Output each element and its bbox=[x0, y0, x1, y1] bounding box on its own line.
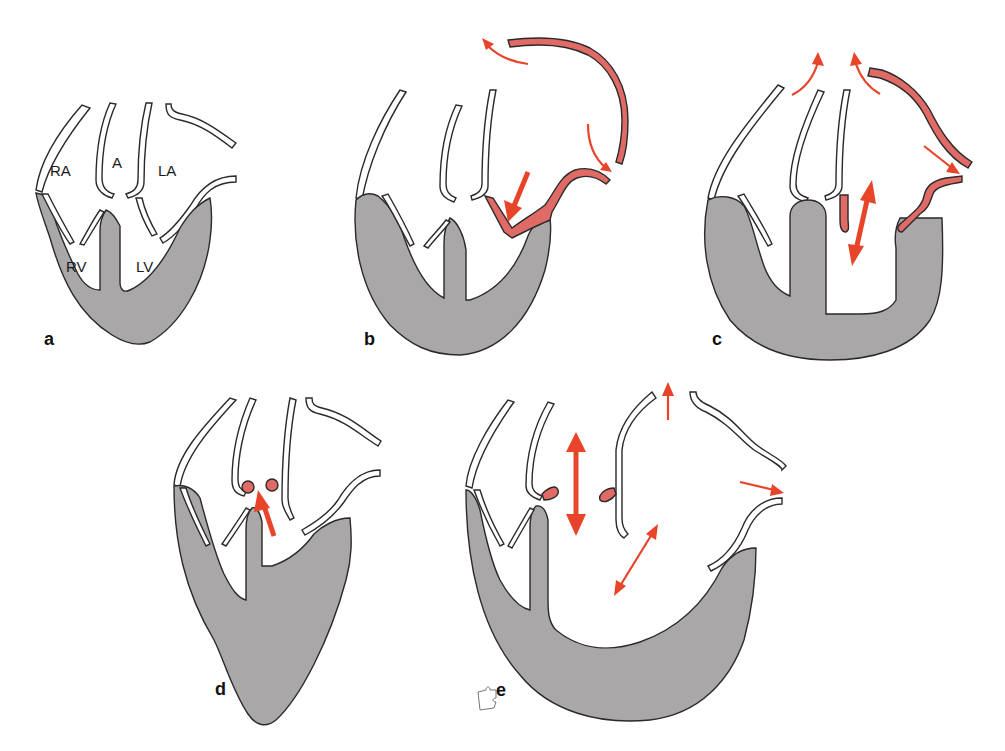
arrowhead-icon bbox=[614, 580, 626, 596]
label-ra: RA bbox=[50, 162, 71, 179]
myocardium bbox=[466, 490, 756, 721]
arrowhead-icon bbox=[850, 52, 862, 66]
myocardium bbox=[355, 194, 551, 355]
arrowhead-icon bbox=[812, 52, 824, 66]
arrowhead-icon bbox=[254, 490, 270, 512]
panel-c: c bbox=[705, 52, 972, 360]
double-arrow-icon bbox=[856, 196, 868, 250]
aneurysm-wall bbox=[508, 38, 628, 164]
arrow-icon bbox=[740, 482, 774, 490]
arrowhead-icon bbox=[860, 180, 876, 204]
puzzle-icon bbox=[478, 687, 496, 710]
arrowhead-icon bbox=[848, 244, 864, 266]
aorta-right-wall bbox=[471, 90, 496, 200]
aorta-left-wall bbox=[790, 90, 824, 202]
prolapsed-leaflet bbox=[266, 479, 278, 491]
aorta-left-wall bbox=[440, 105, 462, 202]
curved-arrow-icon bbox=[792, 62, 818, 95]
ra-wall bbox=[708, 85, 784, 200]
thick-arrow-icon bbox=[264, 506, 274, 536]
label-la: LA bbox=[158, 162, 176, 179]
panel-e: e bbox=[466, 382, 786, 721]
panel-label-b: b bbox=[364, 329, 375, 349]
aorta-right-wall bbox=[282, 398, 296, 520]
aorta-right-wall bbox=[825, 90, 850, 200]
arrowhead-icon bbox=[770, 484, 784, 496]
ra-wall bbox=[356, 90, 406, 200]
aorta-right-wall bbox=[616, 392, 656, 538]
prolapsed-leaflet bbox=[600, 488, 616, 502]
la-wall bbox=[690, 392, 786, 470]
panel-label-c: c bbox=[712, 329, 722, 349]
ra-wall bbox=[174, 398, 236, 487]
panel-label-a: a bbox=[44, 329, 55, 349]
arrowhead-icon bbox=[566, 514, 586, 536]
curved-arrow-icon bbox=[488, 46, 528, 64]
mitral-leaflet bbox=[136, 198, 157, 236]
la-wall bbox=[166, 104, 236, 148]
aorta-left-wall bbox=[96, 103, 116, 198]
infarct-wall bbox=[840, 195, 849, 232]
atrial-wall bbox=[868, 68, 972, 168]
curved-arrow-icon bbox=[588, 124, 606, 168]
ra-wall bbox=[466, 400, 514, 488]
prolapsed-leaflet bbox=[242, 481, 254, 493]
arrowhead-icon bbox=[662, 382, 674, 396]
prolapsed-leaflet bbox=[542, 487, 558, 500]
panel-label-d: d bbox=[215, 679, 226, 699]
arrowhead-icon bbox=[646, 524, 658, 540]
label-rv: RV bbox=[66, 258, 87, 275]
double-arrow-icon bbox=[620, 534, 652, 586]
arrowhead-icon bbox=[482, 38, 494, 50]
aorta-right-wall bbox=[126, 103, 152, 198]
arrowhead-icon bbox=[566, 432, 586, 452]
la-wall bbox=[306, 398, 381, 446]
label-lv: LV bbox=[136, 258, 153, 275]
heart-diagram-figure: RA A LA RV LV a b bbox=[0, 0, 1005, 751]
thick-arrow-icon bbox=[514, 172, 528, 206]
aorta-left-wall bbox=[232, 398, 256, 496]
panel-label-e: e bbox=[496, 680, 506, 700]
aorta-left-wall bbox=[526, 402, 554, 500]
panel-d: d bbox=[174, 398, 381, 725]
panel-a: RA A LA RV LV a bbox=[36, 103, 236, 349]
panel-b: b bbox=[355, 38, 628, 355]
label-aorta: A bbox=[112, 154, 122, 171]
